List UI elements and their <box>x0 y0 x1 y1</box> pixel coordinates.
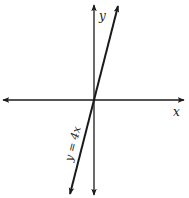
y-axis-label: y <box>98 9 106 23</box>
equation-label: y = 4x <box>62 124 84 163</box>
coordinate-plane: y x y = 4x <box>0 0 189 198</box>
x-axis-label: x <box>173 105 180 119</box>
